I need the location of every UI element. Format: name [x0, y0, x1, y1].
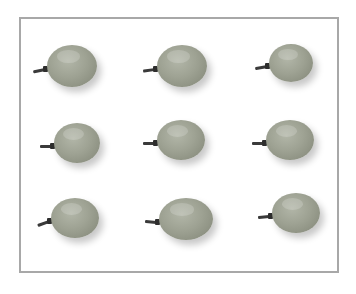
grape-berry — [266, 120, 314, 160]
grape-berry — [157, 45, 207, 87]
grape-berry — [47, 45, 97, 87]
grape-berry — [272, 193, 320, 233]
grape-berry — [54, 123, 100, 163]
grape-berry — [157, 120, 205, 160]
grape-berry — [269, 44, 313, 82]
grape-berry — [159, 198, 213, 240]
grape-berry — [51, 198, 99, 238]
